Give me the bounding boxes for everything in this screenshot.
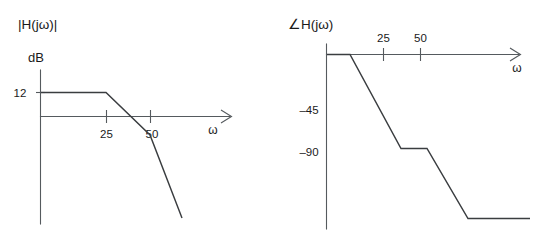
bode-plot-svg: |H(jω)| dB 12 25 50 ω ∠H(j — [0, 0, 534, 241]
phase-y-tick-label-minus90: –90 — [299, 146, 318, 158]
magnitude-y-tick-label-12: 12 — [14, 87, 27, 99]
magnitude-x-tick-label-25: 25 — [100, 128, 113, 140]
phase-plot-group: ∠H(jω) 25 50 ω –45 –90 — [288, 17, 530, 229]
magnitude-plot-title: |H(jω)| — [18, 17, 57, 32]
phase-y-tick-label-minus45: –45 — [299, 104, 318, 116]
bode-plot-figure: |H(jω)| dB 12 25 50 ω ∠H(j — [0, 0, 534, 241]
phase-x-tick-label-50: 50 — [414, 32, 427, 44]
magnitude-response-curve — [41, 93, 182, 219]
phase-x-tick-label-25: 25 — [377, 32, 390, 44]
magnitude-x-axis-label: ω — [208, 123, 217, 137]
phase-response-curve — [327, 55, 530, 219]
magnitude-plot-group: |H(jω)| dB 12 25 50 ω — [14, 17, 232, 224]
phase-x-axis-label: ω — [512, 61, 521, 75]
phase-plot-title: ∠H(jω) — [288, 17, 333, 32]
magnitude-y-axis-unit: dB — [28, 50, 44, 65]
